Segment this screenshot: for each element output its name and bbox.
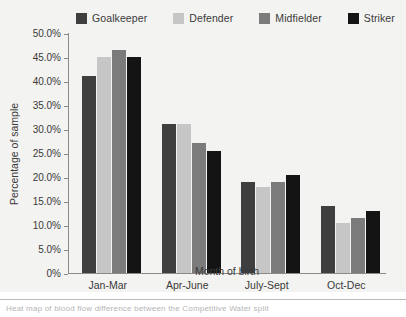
- y-axis-tick-mark: [64, 202, 68, 203]
- y-axis-tick-label: 5.0%: [38, 245, 61, 255]
- bar-defender-july-sept[interactable]: [256, 187, 270, 273]
- bar-goalkeeper-apr-june[interactable]: [162, 124, 176, 273]
- legend-entry-goalkeeper[interactable]: Goalkeeper: [76, 13, 147, 24]
- y-axis-tick-label: 15.0%: [33, 197, 61, 207]
- figure-chart-month-of-birth: Goalkeeper Defender Midfielder Striker P…: [0, 0, 406, 317]
- y-axis-tick-mark: [64, 178, 68, 179]
- y-axis-tick-mark: [64, 154, 68, 155]
- legend-entry-defender[interactable]: Defender: [173, 13, 233, 24]
- y-axis-tick-mark: [64, 226, 68, 227]
- caption-divider: [0, 299, 406, 300]
- y-axis-tick-mark: [64, 250, 68, 251]
- legend-swatch-midfielder: [259, 13, 270, 24]
- bar-group: [241, 33, 300, 273]
- bar-group: [162, 33, 221, 273]
- x-axis-label-jan-mar: Jan-Mar: [68, 279, 148, 291]
- bar-goalkeeper-jan-mar[interactable]: [82, 76, 96, 273]
- bar-defender-apr-june[interactable]: [177, 124, 191, 273]
- figure-caption: Heat map of blood flow difference betwee…: [6, 303, 400, 314]
- y-axis-tick-mark: [64, 34, 68, 35]
- x-axis-title: Month of birth: [68, 265, 386, 277]
- x-axis-label-oct-dec: Oct-Dec: [307, 279, 387, 291]
- bar-striker-jan-mar[interactable]: [127, 57, 141, 273]
- bar-group: [321, 33, 380, 273]
- chart-legend: Goalkeeper Defender Midfielder Striker: [76, 11, 395, 25]
- y-axis-tick-label: 45.0%: [33, 53, 61, 63]
- x-axis-label-july-sept: July-Sept: [227, 279, 307, 291]
- y-axis-tick-mark: [64, 130, 68, 131]
- legend-label-defender: Defender: [189, 13, 233, 24]
- y-axis-tick-label: 20.0%: [33, 173, 61, 183]
- bar-group: [82, 33, 141, 273]
- bar-midfielder-july-sept[interactable]: [271, 182, 285, 273]
- bar-midfielder-apr-june[interactable]: [192, 143, 206, 273]
- y-axis-title: Percentage of sample: [8, 33, 20, 274]
- legend-entry-striker[interactable]: Striker: [348, 13, 395, 24]
- bar-striker-july-sept[interactable]: [286, 175, 300, 273]
- y-axis-tick-label: 40.0%: [33, 77, 61, 87]
- bar-goalkeeper-oct-dec[interactable]: [321, 206, 335, 273]
- y-axis-tick-mark: [64, 106, 68, 107]
- y-axis-tick-label: 35.0%: [33, 101, 61, 111]
- bar-defender-jan-mar[interactable]: [97, 57, 111, 273]
- legend-swatch-goalkeeper: [76, 13, 87, 24]
- legend-label-striker: Striker: [364, 13, 395, 24]
- x-axis-label-apr-june: Apr-June: [148, 279, 228, 291]
- y-axis-tick-label: 0%: [47, 269, 61, 279]
- plot-area: 50.0%45.0%40.0%35.0%30.0%25.0%20.0%15.0%…: [68, 33, 386, 274]
- y-axis-line: [68, 33, 69, 274]
- legend-swatch-striker: [348, 13, 359, 24]
- y-axis-title-text: Percentage of sample: [8, 102, 20, 204]
- bar-midfielder-jan-mar[interactable]: [112, 50, 126, 273]
- legend-entry-midfielder[interactable]: Midfielder: [259, 13, 322, 24]
- y-axis-tick-label: 10.0%: [33, 221, 61, 231]
- bar-goalkeeper-july-sept[interactable]: [241, 182, 255, 273]
- y-axis-tick-label: 50.0%: [33, 29, 61, 39]
- y-axis-tick-mark: [64, 82, 68, 83]
- bar-striker-oct-dec[interactable]: [366, 211, 380, 273]
- y-axis-tick-label: 30.0%: [33, 125, 61, 135]
- bar-striker-apr-june[interactable]: [207, 151, 221, 273]
- legend-label-goalkeeper: Goalkeeper: [92, 13, 147, 24]
- legend-label-midfielder: Midfielder: [275, 13, 322, 24]
- y-axis-tick-label: 25.0%: [33, 149, 61, 159]
- y-axis-tick-mark: [64, 58, 68, 59]
- legend-swatch-defender: [173, 13, 184, 24]
